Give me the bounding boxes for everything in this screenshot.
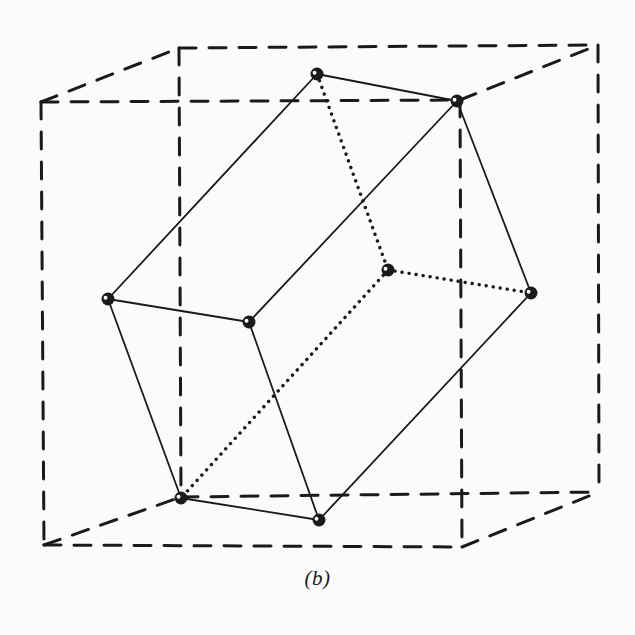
figure-root: (b) (b) [0,0,635,635]
vertex-highlight [245,319,249,323]
cube-edge-front_top_left-to-front_top_right [41,100,460,102]
vertex-mid_left [243,316,256,329]
solid-edge-v_top-to-v_left [108,74,317,299]
cube-edge-front_top_left-to-front_bottom_left [41,102,44,545]
vertex-dot [102,293,115,306]
vertex-dot [451,95,464,108]
polyhedron-diagram [0,0,635,635]
cube-edge-back_bottom_left-to-back_bottom_right [181,492,599,497]
hidden-edge-v_top-to-v_center [317,74,388,270]
dashed-cube-group [41,45,599,547]
vertex-highlight [384,267,388,271]
vertex-dot [525,287,538,300]
solid-edge-v_mid_left-to-v_bottom_mid [249,322,319,520]
solid-edge-v_bottom_left-to-v_bottom_mid [181,498,319,520]
hidden-edge-v_center-to-v_bottom_left [181,270,388,498]
cube-edge-front_top_right-to-back_top_right [460,45,598,100]
vertex-dot [313,514,326,527]
cube-edge-front_bottom_left-to-front_bottom_right [44,545,462,547]
figure-caption: (b) (b) [0,566,635,591]
vertex-center [382,264,395,277]
solid-edge-v_left-to-v_mid_left [108,299,249,322]
vertex-highlight [453,98,457,102]
cube-edge-back_top_right-to-back_bottom_right [598,45,599,492]
vertex-highlight [315,517,319,521]
vertex-highlight [527,290,531,294]
polyhedron-hidden-edges-group [181,74,531,498]
cube-edge-front_bottom_left-to-back_bottom_left [44,497,181,545]
vertex-dot [382,264,395,277]
cube-edge-back_top_left-to-back_bottom_left [179,48,181,497]
solid-edge-v_top-to-v_top_right [317,74,457,101]
vertex-bottom_left [175,492,188,505]
solid-edge-v_mid_left-to-v_top_right [249,101,457,322]
cube-edge-front_top_right-to-front_bottom_right [460,100,462,547]
vertex-bottom_mid [313,514,326,527]
solid-edge-v_bottom_mid-to-v_right [319,293,531,520]
vertex-highlight [104,296,108,300]
vertex-dot [175,492,188,505]
polyhedron-solid-edges-group [108,74,531,520]
vertex-dot [243,316,256,329]
vertex-top_right [451,95,464,108]
vertex-left [102,293,115,306]
cube-edge-back_top_left-to-back_top_right [179,45,598,48]
caption-text: (b) [305,566,331,590]
solid-edge-v_right-to-v_top_right [457,101,531,293]
vertex-top [311,68,324,81]
cube-edge-front_top_left-to-back_top_left [41,48,179,102]
vertex-highlight [177,495,181,499]
vertex-right [525,287,538,300]
vertex-highlight [313,71,317,75]
cube-edge-front_bottom_right-to-back_bottom_right [462,492,599,547]
vertex-dot [311,68,324,81]
solid-edge-v_left-to-v_bottom_left [108,299,181,498]
